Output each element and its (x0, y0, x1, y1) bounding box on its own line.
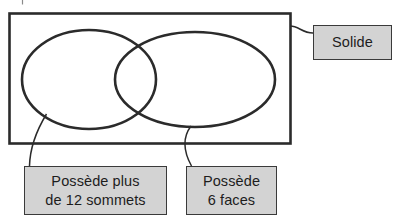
universe-rectangle (10, 14, 291, 144)
diagram-canvas: Solide Possède plus de 12 sommets Possèd… (0, 0, 398, 224)
right-set-ellipse (115, 32, 275, 127)
connector-vertices (30, 114, 47, 166)
label-possede-6-faces: Possède 6 faces (186, 166, 277, 215)
label-solide: Solide (313, 25, 392, 60)
connector-solide (290, 26, 313, 33)
left-set-ellipse (22, 30, 156, 129)
label-solide-text: Solide (332, 33, 373, 52)
label-possede-plus-de-12-sommets: Possède plus de 12 sommets (24, 166, 167, 215)
label-vertices-line-2: de 12 sommets (45, 191, 145, 210)
label-faces-line-1: Possède (203, 172, 260, 191)
label-faces-line-2: 6 faces (208, 191, 255, 210)
label-vertices-line-1: Possède plus (51, 172, 139, 191)
connector-faces (185, 126, 192, 166)
